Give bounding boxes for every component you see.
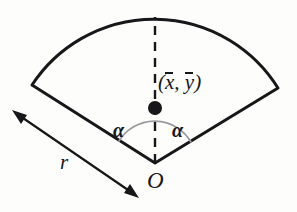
alpha-label-left: α [113,120,124,140]
radius-arrowhead-lower-right-icon [124,184,139,198]
centroid-comma: , [174,70,185,94]
radius-arrowhead-upper-left-icon [12,110,27,124]
figure-canvas: (x, y) α α O r [0,0,297,212]
centroid-dot [148,101,162,115]
centroid-close-paren: ) [194,70,201,94]
origin-label: O [147,169,164,192]
radius-label: r [60,152,68,173]
centroid-x-bar: x [165,71,174,93]
centroid-open-paren: ( [158,70,165,94]
centroid-y-bar: y [185,71,194,93]
alpha-label-right: α [172,120,183,140]
centroid-coordinate-label: (x, y) [158,71,201,93]
